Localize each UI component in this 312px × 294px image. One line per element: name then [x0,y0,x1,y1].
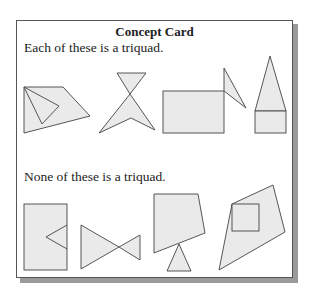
negative-shape-1 [24,204,67,270]
positive-shape-2 [99,73,155,133]
positive-shape-4 [255,56,286,133]
negative-shape-3 [154,194,205,271]
negative-shape-2 [81,225,140,269]
positive-shape-1 [24,87,90,133]
negative-shape-4 [219,185,285,270]
positive-shape-3 [163,68,246,133]
shapes-canvas [0,0,312,294]
